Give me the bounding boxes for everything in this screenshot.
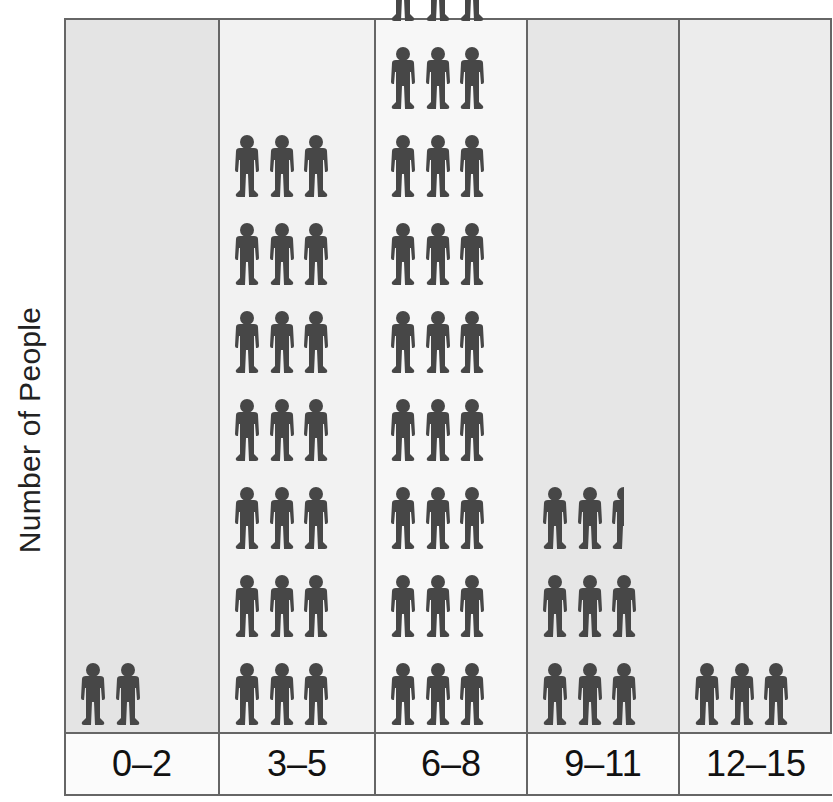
person-icon	[573, 464, 608, 552]
person-icon	[230, 288, 265, 376]
person-icon	[455, 376, 490, 464]
person-icon	[455, 0, 490, 24]
icon-grid	[230, 112, 366, 728]
person-icon	[265, 288, 300, 376]
person-icon	[725, 640, 760, 728]
column-6-8	[376, 20, 528, 736]
person-icon	[230, 200, 265, 288]
person-icon	[573, 552, 608, 640]
person-icon	[299, 112, 334, 200]
person-icon	[421, 464, 456, 552]
person-icon	[421, 376, 456, 464]
person-icon	[265, 376, 300, 464]
person-icon	[386, 24, 421, 112]
person-icon	[76, 640, 111, 728]
icon-grid	[690, 640, 822, 728]
person-icon	[421, 112, 456, 200]
column-9-11	[528, 20, 680, 736]
person-icon	[690, 640, 725, 728]
category-label: 9–11	[528, 734, 680, 794]
category-label-row: 0–2 3–5 6–8 9–11 12–15	[66, 732, 830, 794]
column-0-2	[66, 20, 220, 736]
person-icon	[573, 640, 608, 728]
person-icon	[265, 552, 300, 640]
y-axis-label: Number of People	[13, 307, 47, 554]
column-12-15	[680, 20, 832, 736]
person-icon	[421, 0, 456, 24]
person-icon	[299, 200, 334, 288]
person-icon	[538, 640, 573, 728]
person-icon	[230, 552, 265, 640]
person-icon	[386, 0, 421, 24]
person-icon	[421, 640, 456, 728]
person-icon	[386, 464, 421, 552]
person-icon	[230, 112, 265, 200]
person-icon	[455, 288, 490, 376]
category-label: 0–2	[66, 734, 220, 794]
person-icon	[538, 552, 573, 640]
person-icon	[455, 552, 490, 640]
icon-grid	[538, 464, 670, 728]
person-icon	[386, 200, 421, 288]
person-icon	[386, 552, 421, 640]
person-icon	[111, 640, 146, 728]
person-icon	[455, 640, 490, 728]
person-icon	[386, 288, 421, 376]
half-person-icon	[607, 464, 642, 552]
person-icon	[386, 640, 421, 728]
person-icon	[538, 464, 573, 552]
person-icon	[299, 552, 334, 640]
person-icon	[607, 640, 642, 728]
person-icon	[386, 376, 421, 464]
person-icon	[759, 640, 794, 728]
person-icon	[230, 376, 265, 464]
person-icon	[299, 376, 334, 464]
person-icon	[455, 24, 490, 112]
person-icon	[299, 464, 334, 552]
person-icon	[421, 24, 456, 112]
category-label: 6–8	[376, 734, 528, 794]
person-icon	[265, 112, 300, 200]
column-3-5	[220, 20, 376, 736]
person-icon	[265, 464, 300, 552]
person-icon	[386, 112, 421, 200]
person-icon	[455, 112, 490, 200]
person-icon	[455, 200, 490, 288]
icon-grid	[76, 640, 210, 728]
person-icon	[265, 200, 300, 288]
category-label: 12–15	[680, 734, 832, 794]
category-label: 3–5	[220, 734, 376, 794]
person-icon	[421, 552, 456, 640]
person-icon	[299, 640, 334, 728]
person-icon	[230, 464, 265, 552]
person-icon	[607, 552, 642, 640]
person-icon	[455, 464, 490, 552]
pictograph-chart: 0–2 3–5 6–8 9–11 12–15	[64, 18, 832, 796]
person-icon	[421, 288, 456, 376]
icon-grid	[386, 0, 518, 728]
person-icon	[230, 640, 265, 728]
person-icon	[265, 640, 300, 728]
person-icon	[299, 288, 334, 376]
person-icon	[421, 200, 456, 288]
